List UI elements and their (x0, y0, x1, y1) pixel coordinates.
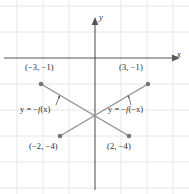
x-axis (4, 55, 180, 62)
point-label-top-right: (3, −1) (119, 63, 143, 72)
point-label-bottom-left: (−2, −4) (29, 142, 58, 151)
function-label-left: y = −f(x) (20, 105, 50, 114)
y-axis (92, 17, 99, 190)
y-axis-label: y (99, 13, 103, 22)
graph-figure: x y (−3, −1) (3, −1) (−2, −4) (2, −4) y … (0, 0, 189, 194)
pointer-arrow-left (56, 95, 60, 105)
point-label-bottom-right: (2, −4) (107, 142, 131, 151)
function-label-right: y = −f(−x) (108, 105, 143, 114)
function-label-left-prefix: y = − (20, 104, 38, 114)
function-label-left-arg: (x) (40, 104, 50, 114)
function-label-right-arg: (−x) (128, 104, 143, 114)
function-label-right-prefix: y = − (108, 104, 126, 114)
coordinate-plane-svg (0, 0, 189, 194)
x-axis-label: x (177, 50, 181, 59)
point-label-top-left: (−3, −1) (25, 63, 54, 72)
